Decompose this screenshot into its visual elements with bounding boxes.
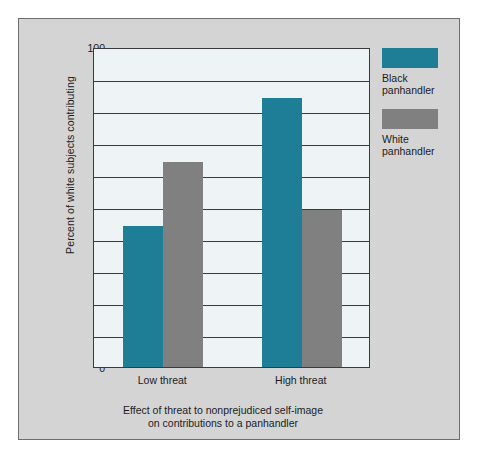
bar-white-panhandler-low-threat	[163, 162, 203, 367]
caption-line-1: Effect of threat to nonprejudiced self-i…	[53, 404, 393, 417]
legend-label-white-panhandler-line1: White	[382, 133, 458, 145]
legend-label-black-panhandler-line1: Black	[382, 72, 458, 84]
chart-caption: Effect of threat to nonprejudiced self-i…	[53, 404, 393, 430]
legend-label-white-panhandler: White panhandler	[382, 133, 458, 157]
x-axis-tick-labels: Low threatHigh threat	[93, 374, 370, 390]
figure-panel: Percent of white subjects contributing 1…	[18, 18, 460, 440]
bar-black-panhandler-high-threat	[262, 98, 302, 367]
bar-white-panhandler-high-threat	[302, 210, 342, 367]
legend-item-white-panhandler: White panhandler	[382, 109, 458, 157]
legend-label-black-panhandler-line2: panhandler	[382, 84, 458, 96]
legend-item-black-panhandler: Black panhandler	[382, 48, 458, 96]
legend-swatch-white-panhandler	[382, 109, 438, 129]
bars-layer	[94, 49, 369, 367]
legend-swatch-black-panhandler	[382, 48, 438, 68]
legend-label-white-panhandler-line2: panhandler	[382, 145, 458, 157]
chart-legend: Black panhandler White panhandler	[382, 48, 458, 170]
x-axis-tick-label: Low threat	[93, 374, 232, 386]
plot-area	[93, 48, 370, 368]
caption-line-2: on contributions to a panhandler	[53, 417, 393, 430]
legend-label-black-panhandler: Black panhandler	[382, 72, 458, 96]
bar-black-panhandler-low-threat	[123, 226, 163, 367]
x-axis-tick-label: High threat	[232, 374, 371, 386]
